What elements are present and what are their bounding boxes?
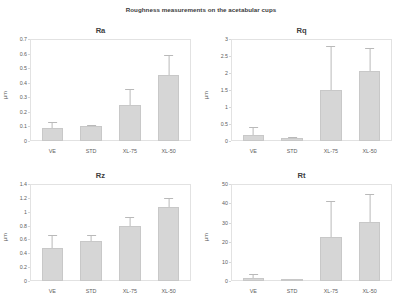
panel-title-rz: Rz xyxy=(0,171,201,180)
bar-slot xyxy=(312,184,351,281)
bar-slot xyxy=(273,39,312,141)
x-tick-label: XL-75 xyxy=(312,148,351,154)
bars-rz xyxy=(30,184,191,281)
error-bar xyxy=(369,194,370,222)
y-tick-label: 0.5 xyxy=(20,65,27,71)
bar-slot xyxy=(312,39,351,141)
y-tick-label: 0.1 xyxy=(20,123,27,129)
y-tick-label: 1.2 xyxy=(20,195,27,201)
panel-rz: Rz µm 1.41.210.80.60.40.20 VESTDXL-75XL-… xyxy=(0,167,201,307)
y-tick-label: 1.4 xyxy=(20,181,27,187)
x-tick-label: XL-75 xyxy=(111,288,150,294)
bar xyxy=(243,135,265,141)
bar xyxy=(119,226,141,281)
y-tick-label: 0.6 xyxy=(20,236,27,242)
x-tick-label: STD xyxy=(72,288,111,294)
y-tick-label: 0 xyxy=(24,278,27,284)
bar-slot xyxy=(350,39,389,141)
bar-slot xyxy=(234,184,273,281)
y-tick-label: 0.7 xyxy=(20,36,27,42)
x-tick-label: XL-50 xyxy=(149,148,188,154)
y-tick-label: 0 xyxy=(225,278,228,284)
y-tick-label: 0.2 xyxy=(20,109,27,115)
error-bar xyxy=(330,201,331,237)
x-labels-rq: VESTDXL-75XL-50 xyxy=(231,148,392,154)
y-tick-label: 20 xyxy=(222,239,228,245)
y-tick-label: 3 xyxy=(225,36,228,42)
y-axis-label-rz: µm xyxy=(2,233,8,241)
y-tick-label: 0 xyxy=(24,138,27,144)
bar xyxy=(119,105,141,141)
x-labels-ra: VESTDXL-75XL-50 xyxy=(30,148,191,154)
error-bar xyxy=(129,89,130,105)
bar-slot xyxy=(33,184,72,281)
bars-rq xyxy=(231,39,392,141)
bar-slot xyxy=(72,184,111,281)
x-tick-label: XL-50 xyxy=(350,288,389,294)
bar-slot xyxy=(149,39,188,141)
error-bar xyxy=(168,198,169,207)
x-tick-label: XL-75 xyxy=(312,288,351,294)
panel-title-ra: Ra xyxy=(0,26,201,35)
x-tick-label: STD xyxy=(273,288,312,294)
bar xyxy=(320,90,342,141)
y-tick-label: 2 xyxy=(225,70,228,76)
bar xyxy=(281,279,303,281)
bars-ra xyxy=(30,39,191,141)
x-tick-label: VE xyxy=(33,288,72,294)
plot-wrap-ra: 0.70.60.50.40.30.20.10 xyxy=(30,39,191,141)
y-tick-label: 0.2 xyxy=(20,264,27,270)
x-tick-label: STD xyxy=(273,148,312,154)
y-tick-label: 1.5 xyxy=(221,87,228,93)
error-bar xyxy=(52,235,53,247)
x-labels-rz: VESTDXL-75XL-50 xyxy=(30,288,191,294)
bar xyxy=(42,248,64,281)
bar-slot xyxy=(111,39,150,141)
error-bar xyxy=(253,127,254,135)
bar xyxy=(281,138,303,141)
x-tick-label: XL-75 xyxy=(111,148,150,154)
error-bar xyxy=(369,48,370,72)
bar-slot xyxy=(149,184,188,281)
panel-grid: Ra µm 0.70.60.50.40.30.20.10 VESTDXL-75X… xyxy=(0,22,402,307)
bar xyxy=(243,278,265,281)
bar xyxy=(359,71,381,141)
figure-title: Roughness measurements on the acetabular… xyxy=(0,6,402,13)
y-tick-label: 50 xyxy=(222,181,228,187)
error-bar xyxy=(129,217,130,226)
x-tick-label: STD xyxy=(72,148,111,154)
bar xyxy=(359,222,381,281)
bars-rt xyxy=(231,184,392,281)
bar xyxy=(42,128,64,141)
panel-ra: Ra µm 0.70.60.50.40.30.20.10 VESTDXL-75X… xyxy=(0,22,201,167)
panel-title-rt: Rt xyxy=(201,171,402,180)
bar xyxy=(80,241,102,281)
y-axis-label-rq: µm xyxy=(203,91,209,99)
plot-wrap-rt: 50403020100 xyxy=(231,184,392,281)
y-tick-label: 0.8 xyxy=(20,223,27,229)
bar-slot xyxy=(273,184,312,281)
y-tick-label: 40 xyxy=(222,200,228,206)
y-tick-label: 0.6 xyxy=(20,51,27,57)
plot-wrap-rq: 32.521.510.50 xyxy=(231,39,392,141)
x-tick-label: VE xyxy=(234,148,273,154)
bar xyxy=(158,207,180,281)
y-tick-label: 1 xyxy=(24,209,27,215)
panel-title-rq: Rq xyxy=(201,26,402,35)
error-bar xyxy=(330,46,331,90)
x-tick-label: XL-50 xyxy=(350,148,389,154)
x-tick-label: VE xyxy=(234,288,273,294)
bar xyxy=(80,126,102,141)
error-bar xyxy=(168,55,169,75)
y-tick-label: 0.4 xyxy=(20,80,27,86)
bar-slot xyxy=(33,39,72,141)
y-tick-label: 30 xyxy=(222,220,228,226)
panel-rt: Rt µm 50403020100 VESTDXL-75XL-50 xyxy=(201,167,402,307)
y-tick-label: 1 xyxy=(225,104,228,110)
plot-wrap-rz: 1.41.210.80.60.40.20 xyxy=(30,184,191,281)
bar xyxy=(158,75,180,141)
y-axis-label-rt: µm xyxy=(203,233,209,241)
bar-slot xyxy=(234,39,273,141)
y-axis-label-ra: µm xyxy=(2,91,8,99)
bar-slot xyxy=(350,184,389,281)
